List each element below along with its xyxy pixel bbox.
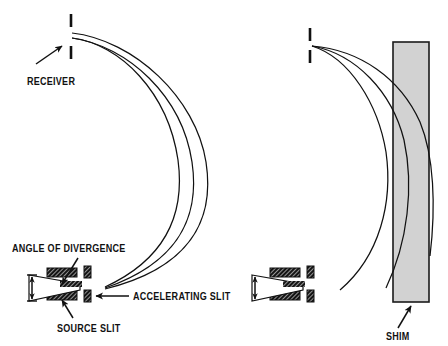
source-assembly bbox=[29, 266, 91, 302]
shim-label: SHIM bbox=[386, 330, 410, 342]
panel-with-shim: SHIM bbox=[252, 28, 433, 342]
hatched-plate-icon-upper-right bbox=[270, 268, 300, 277]
hatched-plate-icon-accel-upper bbox=[84, 266, 91, 278]
source-slit-aperture-right bbox=[283, 281, 305, 287]
hatched-plate-icon-accel-upper-right bbox=[307, 266, 314, 278]
panel-without-shim: RECEIVER bbox=[12, 14, 230, 334]
receiver-annotation: RECEIVER bbox=[27, 46, 75, 87]
accelerating-slit-annotation: ACCELERATING SLIT bbox=[96, 290, 230, 302]
receiver-arrow-icon bbox=[36, 46, 62, 64]
angle-of-divergence-label: ANGLE OF DIVERGENCE bbox=[12, 242, 126, 254]
shim-arrow-icon bbox=[398, 306, 411, 328]
accelerating-slit-label: ACCELERATING SLIT bbox=[133, 290, 230, 302]
hatched-plate-icon-upper bbox=[47, 268, 77, 277]
shim-annotation: SHIM bbox=[386, 306, 411, 342]
ion-optics-figure: RECEIVER bbox=[0, 0, 448, 346]
source-slit-annotation: SOURCE SLIT bbox=[57, 300, 120, 334]
trajectory-outer-right bbox=[312, 46, 388, 290]
shim-block bbox=[393, 42, 429, 302]
hatched-plate-icon-accel-lower bbox=[84, 290, 91, 302]
hatched-plate-icon-accel-lower-right bbox=[307, 290, 314, 302]
source-slit-arrow-icon bbox=[62, 300, 73, 318]
source-assembly-right bbox=[252, 266, 314, 302]
figure-canvas: RECEIVER bbox=[0, 0, 448, 346]
source-slit-label: SOURCE SLIT bbox=[57, 322, 120, 334]
receiver-label: RECEIVER bbox=[27, 75, 75, 87]
